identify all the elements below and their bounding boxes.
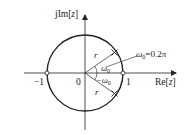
angle-arc-upper [95, 66, 97, 73]
imaginary-axis-label: jIm[z] [54, 9, 78, 19]
tick-label-one: 1 [126, 77, 131, 87]
angle-label-lower: −ω0 [96, 75, 111, 86]
radius-label-upper: r [94, 50, 98, 60]
zero-marker-one [121, 71, 125, 75]
angle-label-upper: ω0 [101, 63, 110, 74]
real-axis-label: Re[z] [155, 77, 176, 87]
zero-marker-minus-one [45, 71, 49, 75]
z-plane-diagram: jIm[z] Re[z] −1 0 1 r r ω0 −ω0 ω0=0.2π [0, 0, 184, 135]
radius-label-lower: r [95, 87, 99, 97]
tick-label-origin: 0 [76, 77, 81, 87]
pole-ray-upper [85, 53, 115, 74]
tick-label-minus-one: −1 [34, 77, 44, 87]
annotation-leader [106, 56, 137, 67]
omega-annotation: ω0=0.2π [136, 49, 167, 60]
